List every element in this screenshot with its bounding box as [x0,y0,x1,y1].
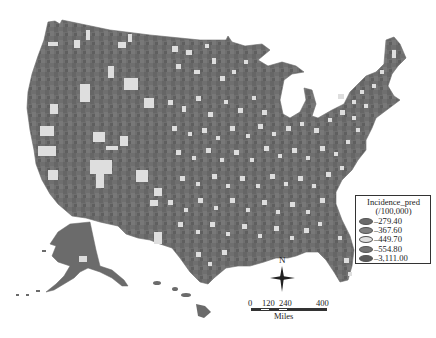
legend-label: –3,111.00 [374,254,408,263]
scale-units: Miles [274,311,293,321]
legend-item: –3,111.00 [359,254,428,263]
north-arrow: N [263,257,303,297]
county-choropleth-map [0,0,436,338]
north-label: N [279,255,286,265]
hawaii [153,281,211,318]
scale-tick-120: 120 [262,298,275,308]
legend-swatch [359,255,373,262]
legend-unit: (/100,000) [359,207,428,216]
scale-tick-240: 240 [279,298,292,308]
legend: Incidence_pred (/100,000) –279.40 –367.6… [355,195,431,264]
legend-swatch [359,246,373,253]
legend-swatch [359,218,373,225]
legend-swatch [359,236,373,243]
legend-swatch [359,227,373,234]
scale-bar: 0 120 240 400 Miles [248,298,338,328]
aleutian-islands [16,250,46,296]
scale-tick-0: 0 [248,298,252,308]
scale-tick-400: 400 [316,298,329,308]
alaska-light-area [79,256,87,262]
